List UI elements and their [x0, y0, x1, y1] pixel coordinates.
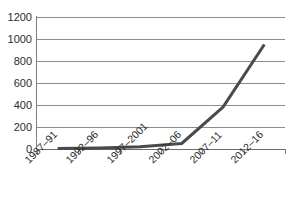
y-tick-label: 1200 — [8, 11, 32, 23]
y-tick-label: 800 — [14, 55, 32, 67]
plot-area — [37, 17, 285, 149]
y-tick-label: 600 — [14, 77, 32, 89]
x-tick — [285, 149, 286, 154]
y-tick-label: 1000 — [8, 33, 32, 45]
y-tick-label: 200 — [14, 121, 32, 133]
line-chart: 020040060080010001200 1987–911992–961997… — [0, 0, 301, 204]
data-series-line — [37, 17, 285, 149]
y-tick-label: 400 — [14, 99, 32, 111]
x-axis-labels: 1987–911992–961997–20012002–062007–11201… — [0, 155, 301, 204]
